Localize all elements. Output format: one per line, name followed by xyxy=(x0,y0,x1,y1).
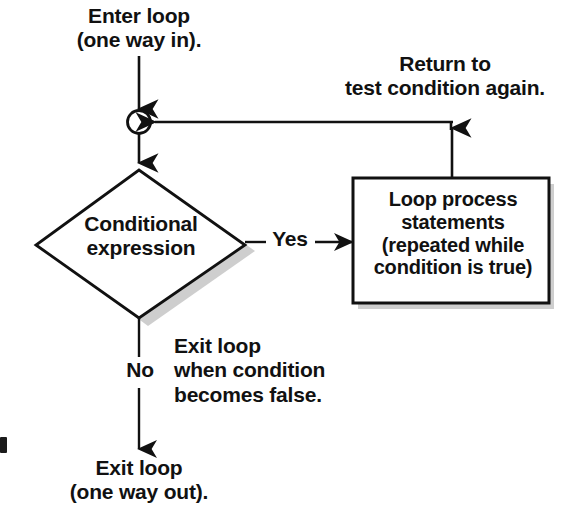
annotation-exit-loop-out: Exit loop (one way out). xyxy=(30,456,248,505)
page-edge-artifact xyxy=(0,437,7,453)
annotation-return-to-test: Return to test condition again. xyxy=(318,52,572,101)
edge-label-yes: Yes xyxy=(264,227,316,251)
entry-connector-node xyxy=(128,111,151,134)
annotation-exit-when-false: Exit loop when condition becomes false. xyxy=(174,334,390,407)
edge-label-no: No xyxy=(110,358,170,382)
flowchart-canvas: Enter loop (one way in). Return to test … xyxy=(0,0,572,518)
decision-node-label: Conditional expression xyxy=(60,212,222,261)
process-node-label: Loop process statements (repeated while … xyxy=(357,188,549,279)
annotation-enter-loop: Enter loop (one way in). xyxy=(34,4,244,53)
